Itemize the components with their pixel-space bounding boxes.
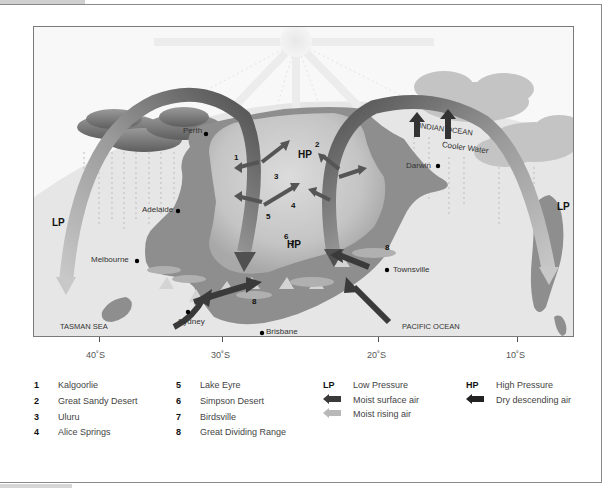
- axis-label-10s: 10˚S: [506, 350, 525, 360]
- legend-item: 1Kalgoorlie: [34, 378, 98, 392]
- legend-item: 3Uluru: [34, 410, 80, 424]
- marker-8-south: 8: [252, 297, 256, 306]
- legend-item: 2Great Sandy Desert: [34, 394, 138, 408]
- legend-dry-descending: Dry descending air: [466, 393, 571, 407]
- label-tasman-sea: TASMAN SEA: [60, 322, 108, 331]
- legend-item: 7Birdsville: [176, 410, 236, 424]
- bottom-tab-strip: [0, 484, 72, 488]
- axis-label-20s: 20˚S: [367, 350, 386, 360]
- legend-moist-rising: Moist rising air: [323, 407, 411, 421]
- legend-item: 4Alice Springs: [34, 425, 111, 439]
- legend-lp: LPLow Pressure: [323, 378, 408, 392]
- label-perth: Perth: [183, 126, 202, 135]
- label-brisbane: Brisbane: [266, 327, 298, 336]
- marker-8-north: 8: [385, 243, 389, 252]
- axis-tick-40: [99, 337, 100, 342]
- label-lp-right: LP: [557, 201, 570, 212]
- label-hp-top: HP: [298, 149, 312, 160]
- legend-item: 8Great Dividing Range: [176, 425, 286, 439]
- marker-4: 4: [291, 201, 295, 210]
- axis-tick-10: [517, 337, 518, 342]
- marker-3: 3: [274, 172, 278, 181]
- legend-hp: HPHigh Pressure: [466, 378, 553, 392]
- map-graphic: [34, 27, 574, 337]
- marker-7: 7: [290, 239, 294, 248]
- axis-label-30s: 30˚S: [211, 350, 230, 360]
- moist-rising-arrow-icon: [323, 408, 353, 420]
- legend-item: 5Lake Eyre: [176, 378, 241, 392]
- label-adelaide: Adelaide: [142, 205, 173, 214]
- label-darwin: Darwin: [406, 161, 431, 170]
- moist-surface-arrow-icon: [323, 394, 353, 406]
- marker-1: 1: [234, 153, 238, 162]
- label-pacific-ocean: PACIFIC OCEAN: [402, 322, 460, 331]
- label-sydney: Sydney: [178, 317, 205, 326]
- label-melbourne: Melbourne: [91, 255, 129, 264]
- axis-label-40s: 40˚S: [86, 350, 105, 360]
- axis-tick-20: [378, 337, 379, 342]
- label-lp-left: LP: [52, 217, 65, 228]
- australia-climate-map: Perth Adelaide Melbourne Sydney Brisbane…: [33, 26, 574, 337]
- marker-6: 6: [284, 232, 288, 241]
- marker-5: 5: [266, 212, 270, 221]
- marker-2: 2: [315, 140, 319, 149]
- label-townsville: Townsville: [393, 265, 429, 274]
- axis-tick-30: [222, 337, 223, 342]
- dry-descending-arrow-icon: [466, 394, 496, 406]
- legend-item: 6Simpson Desert: [176, 394, 264, 408]
- legend-moist-surface: Moist surface air: [323, 393, 419, 407]
